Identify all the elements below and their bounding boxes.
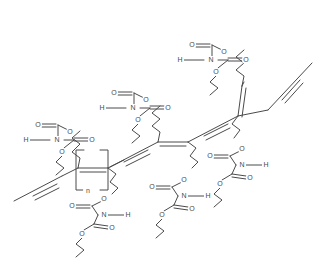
atom-label-o: O: [135, 116, 141, 123]
repeat-unit-bracket: [76, 150, 108, 190]
chain-down-center: [188, 142, 198, 168]
atom-label-h: H: [263, 161, 268, 168]
atom-label-o: O: [69, 202, 75, 209]
chain-up-center: [152, 106, 160, 142]
atom-label-o: O: [189, 41, 195, 48]
bond-double-alkene-left: [78, 168, 108, 172]
labels-side-group-lower-left: O O N H O O: [69, 195, 130, 237]
atom-label-h: H: [177, 56, 182, 63]
atom-label-o: O: [189, 205, 195, 212]
bond-double-alkene-right: [238, 86, 246, 117]
atom-label-o: O: [111, 89, 117, 96]
atom-label-n: N: [208, 56, 213, 63]
atom-label-n: N: [181, 192, 186, 199]
atom-label-o: O: [79, 230, 85, 237]
atom-label-o: O: [59, 148, 65, 155]
atom-label-o: O: [243, 56, 249, 63]
atom-label-n: N: [101, 211, 106, 218]
atom-label-o: O: [165, 104, 171, 111]
atom-label-o: O: [89, 136, 95, 143]
atom-label-n: N: [130, 104, 135, 111]
bond-triple-terminal-left: [14, 176, 62, 201]
atom-label-o: O: [159, 211, 165, 218]
atom-label-h: H: [125, 211, 130, 218]
atom-label-h: H: [99, 104, 104, 111]
repeat-unit-subscript: n: [86, 187, 90, 194]
bond-triple-mid-left: [110, 142, 158, 167]
bond-double-alkene-center: [158, 142, 188, 146]
atom-label-o: O: [221, 48, 227, 55]
atom-label-o: O: [207, 152, 213, 159]
polymer-backbone: [14, 63, 312, 201]
atom-label-h: H: [205, 192, 210, 199]
labels-side-group-lower-center: O O N H O O: [149, 176, 210, 218]
atom-label-o: O: [217, 180, 223, 187]
chemical-structure-svg: O O H N O O O O H N O O O O H N O O O O …: [0, 0, 326, 273]
atom-label-o: O: [181, 176, 187, 183]
atom-label-o: O: [101, 195, 107, 202]
atom-label-o: O: [67, 128, 73, 135]
atom-label-o: O: [247, 174, 253, 181]
atom-label-o: O: [149, 183, 155, 190]
atom-label-n: N: [239, 161, 244, 168]
atom-label-o: O: [35, 121, 41, 128]
structure-canvas: O O H N O O O O H N O O O O H N O O O O …: [0, 0, 326, 273]
chain-down-right: [232, 116, 240, 138]
atom-label-o: O: [239, 145, 245, 152]
atom-label-n: N: [54, 136, 59, 143]
atom-label-o: O: [143, 96, 149, 103]
atom-label-h: H: [23, 136, 28, 143]
labels-side-group-lower-right: O O N H O O: [207, 145, 268, 187]
atom-label-o: O: [109, 224, 115, 231]
chain-down-left: [108, 168, 118, 194]
atom-label-o: O: [213, 68, 219, 75]
bond-triple-terminal-right: [268, 63, 312, 110]
bond-triple-mid-right: [188, 116, 238, 142]
